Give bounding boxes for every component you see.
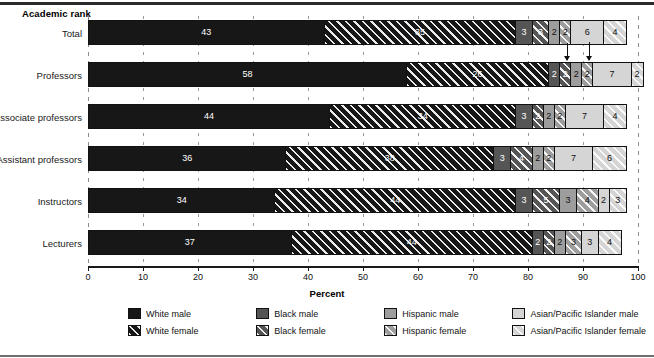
bar-segment-am[interactable]: 6 (571, 21, 604, 44)
x-tick-label-100: 100 (630, 272, 645, 282)
segment-value: 2 (585, 70, 590, 79)
bar-segment-wf[interactable]: 38 (286, 147, 494, 170)
bar-segment-bm[interactable]: 3 (516, 189, 532, 212)
bar-segment-hm[interactable]: 2 (533, 147, 544, 170)
segment-value: 3 (522, 196, 527, 205)
bar-segment-af[interactable]: 4 (604, 105, 626, 128)
bar-segment-wf[interactable]: 35 (325, 21, 517, 44)
bar-segment-bf[interactable]: 2 (560, 63, 571, 86)
bar-segment-bm[interactable]: 2 (533, 231, 544, 254)
x-tick-80 (528, 266, 529, 271)
bar-segment-wm[interactable]: 37 (89, 231, 292, 254)
bar-segment-wm[interactable]: 43 (89, 21, 325, 44)
row-label-professors: Professors (37, 69, 82, 80)
bar-segment-wf[interactable]: 26 (407, 63, 549, 86)
bar-segment-bf[interactable]: 4 (511, 147, 533, 170)
bar-segment-wf[interactable]: 44 (275, 189, 516, 212)
legend-item-bm[interactable]: Black male (256, 308, 384, 319)
bar-segment-hm[interactable]: 2 (555, 231, 566, 254)
bar-segment-bf[interactable]: 5 (533, 189, 560, 212)
bar-segment-am[interactable]: 7 (566, 105, 604, 128)
segment-value: 36 (182, 154, 192, 163)
stacked-bar[interactable]: 3444353423 (88, 188, 627, 213)
row-label-associate-professors: Associate professors (0, 111, 82, 122)
bar-segment-hf[interactable]: 4 (577, 189, 599, 212)
legend-item-hf[interactable]: Hispanic female (384, 325, 512, 336)
segment-value: 2 (601, 196, 606, 205)
bar-row: Instructors3444353423 (88, 188, 638, 213)
bar-segment-am[interactable]: 7 (593, 63, 631, 86)
bar-segment-af[interactable]: 4 (599, 231, 621, 254)
bar-segment-af[interactable]: 2 (632, 63, 643, 86)
bar-segment-af[interactable]: 3 (610, 189, 626, 212)
segment-value: 35 (415, 28, 425, 37)
bar-segment-bm[interactable]: 3 (494, 147, 510, 170)
segment-value: 2 (546, 112, 551, 121)
segment-value: 4 (607, 238, 612, 247)
stacked-bar[interactable]: 4434322274 (88, 104, 627, 129)
bar-row: Assistant professors3638342276 (88, 146, 638, 171)
bar-segment-hf[interactable]: 2 (544, 147, 555, 170)
bar-segment-bm[interactable]: 3 (516, 105, 532, 128)
x-tick-label-10: 10 (138, 272, 148, 282)
stacked-bar[interactable]: 4335332264 (88, 20, 627, 45)
x-tick-label-30: 30 (248, 272, 258, 282)
bar-segment-af[interactable]: 6 (593, 147, 626, 170)
gridline-0 (88, 16, 89, 266)
legend-swatch-am-icon (512, 308, 525, 319)
bar-segment-wm[interactable]: 58 (89, 63, 407, 86)
bar-segment-hm[interactable]: 2 (571, 63, 582, 86)
legend-item-af[interactable]: Asian/Pacific Islander female (512, 325, 646, 336)
segment-value: 5 (544, 196, 549, 205)
bar-segment-wm[interactable]: 44 (89, 105, 330, 128)
arrow-hispanic-female (589, 42, 590, 60)
stacked-bar[interactable]: 3744222334 (88, 230, 622, 255)
bar-segment-wm[interactable]: 34 (89, 189, 275, 212)
legend-swatch-af-icon (512, 325, 525, 336)
bar-segment-bm[interactable]: 3 (516, 21, 532, 44)
bar-segment-hf[interactable]: 2 (560, 21, 571, 44)
segment-value: 2 (546, 238, 551, 247)
legend-item-bf[interactable]: Black female (256, 325, 384, 336)
segment-value: 4 (613, 112, 618, 121)
bar-segment-bf[interactable]: 2 (533, 105, 544, 128)
bar-segment-am[interactable]: 3 (582, 231, 598, 254)
x-tick-label-90: 90 (578, 272, 588, 282)
x-tick-label-60: 60 (413, 272, 423, 282)
y-axis-title: Academic rank (22, 8, 91, 19)
segment-value: 7 (609, 70, 614, 79)
bar-segment-bf[interactable]: 3 (533, 21, 549, 44)
bar-segment-af[interactable]: 4 (604, 21, 626, 44)
bar-segment-am[interactable]: 2 (599, 189, 610, 212)
bar-segment-hf[interactable]: 2 (555, 105, 566, 128)
x-tick-50 (363, 266, 364, 271)
legend-label: Hispanic male (402, 309, 459, 319)
bar-segment-wf[interactable]: 34 (330, 105, 516, 128)
x-axis-title: Percent (0, 288, 654, 299)
segment-value: 3 (500, 154, 505, 163)
bar-segment-hf[interactable]: 2 (582, 63, 593, 86)
stacked-bar[interactable]: 3638342276 (88, 146, 627, 171)
bar-segment-bm[interactable]: 2 (549, 63, 560, 86)
legend-item-wm[interactable]: White male (128, 308, 256, 319)
gridline-40 (308, 16, 309, 266)
x-tick-label-50: 50 (358, 272, 368, 282)
legend-item-hm[interactable]: Hispanic male (384, 308, 512, 319)
bar-segment-wf[interactable]: 44 (292, 231, 533, 254)
legend-item-wf[interactable]: White female (128, 325, 256, 336)
bar-segment-bf[interactable]: 2 (544, 231, 555, 254)
bar-segment-am[interactable]: 7 (555, 147, 593, 170)
bar-segment-hm[interactable]: 3 (560, 189, 576, 212)
bar-segment-hm[interactable]: 2 (544, 105, 555, 128)
bar-segment-hm[interactable]: 2 (549, 21, 560, 44)
segment-value: 7 (582, 112, 587, 121)
segment-value: 37 (185, 238, 195, 247)
legend-item-am[interactable]: Asian/Pacific Islander male (512, 308, 646, 319)
bar-segment-wm[interactable]: 36 (89, 147, 286, 170)
x-tick-30 (253, 266, 254, 271)
bar-row: Lecturers3744222334 (88, 230, 638, 255)
legend-label: Black male (274, 309, 318, 319)
bar-segment-hf[interactable]: 3 (566, 231, 582, 254)
stacked-bar[interactable]: 5826222272 (88, 62, 644, 87)
segment-value: 3 (538, 28, 543, 37)
